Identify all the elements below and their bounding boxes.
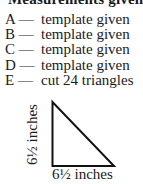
triangle-diagram: 6½ inches 6½ inches xyxy=(0,0,143,184)
right-triangle-icon xyxy=(0,0,143,184)
triangle-height-label: 6½ inches xyxy=(25,100,40,170)
triangle-base-label: 6½ inches xyxy=(52,167,113,182)
